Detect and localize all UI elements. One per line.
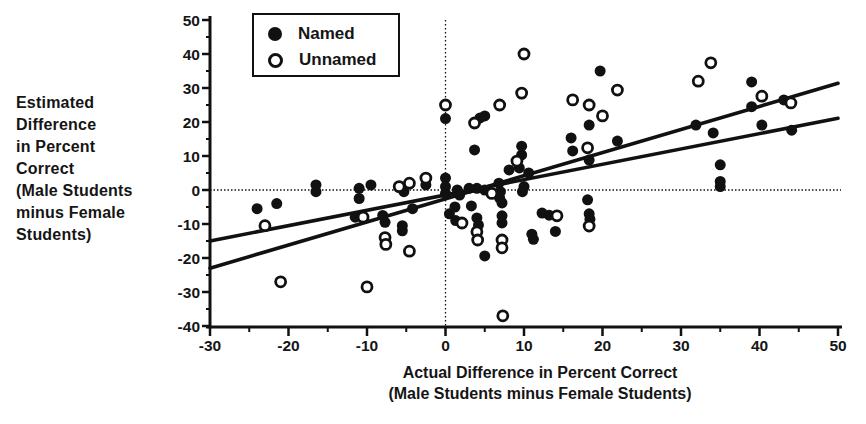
- data-point-named: [479, 110, 490, 121]
- data-point-named: [310, 186, 321, 197]
- x-tick-label: 40: [751, 337, 768, 354]
- data-point-unnamed: [568, 95, 578, 105]
- data-point-named: [271, 198, 282, 209]
- data-point-named: [440, 113, 451, 124]
- data-point-unnamed: [260, 221, 270, 231]
- data-point-unnamed: [583, 143, 593, 153]
- y-axis-label-line: Correct: [16, 158, 133, 180]
- data-point-named: [365, 179, 376, 190]
- data-point-named: [479, 250, 490, 261]
- data-point-unnamed: [421, 173, 431, 183]
- x-tick-label: 30: [672, 337, 689, 354]
- x-tick-label: -10: [356, 337, 378, 354]
- data-point-named: [497, 197, 508, 208]
- data-point-unnamed: [495, 100, 505, 110]
- x-axis-label: Actual Difference in Percent Correct (Ma…: [295, 362, 785, 404]
- data-point-unnamed: [552, 211, 562, 221]
- y-tick-label: 50: [183, 12, 200, 29]
- data-point-named: [612, 136, 623, 147]
- y-axis-label-line: Difference: [16, 114, 133, 136]
- x-axis-label-line: Actual Difference in Percent Correct: [295, 362, 785, 383]
- data-point-unnamed: [276, 277, 286, 287]
- data-point-named: [567, 145, 578, 156]
- data-point-unnamed: [757, 91, 767, 101]
- data-point-unnamed: [584, 100, 594, 110]
- x-tick-label: -20: [277, 337, 299, 354]
- y-tick-label: -40: [178, 318, 200, 335]
- data-point-named: [584, 120, 595, 131]
- data-point-named: [746, 101, 757, 112]
- data-point-named: [582, 194, 593, 205]
- data-point-unnamed: [512, 156, 522, 166]
- data-point-unnamed: [706, 58, 716, 68]
- data-point-named: [746, 76, 757, 87]
- y-tick-label: -30: [178, 284, 200, 301]
- data-point-unnamed: [358, 212, 368, 222]
- shallower-fit-line: [210, 118, 838, 241]
- y-axis-label: Estimated Difference in Percent Correct …: [16, 92, 133, 246]
- legend-item-named: Named: [268, 21, 398, 47]
- y-tick-label: 30: [183, 80, 200, 97]
- data-point-named: [566, 132, 577, 143]
- data-point-named: [354, 193, 365, 204]
- data-point-named: [550, 226, 561, 237]
- y-tick-label: 0: [191, 182, 200, 199]
- data-point-unnamed: [362, 282, 372, 292]
- data-point-named: [466, 200, 477, 211]
- data-point-unnamed: [441, 100, 451, 110]
- data-point-unnamed: [381, 239, 391, 249]
- data-point-unnamed: [394, 182, 404, 192]
- x-axis-label-line: (Male Students minus Female Students): [295, 383, 785, 404]
- y-tick-label: -20: [178, 250, 200, 267]
- data-point-named: [523, 168, 534, 179]
- data-point-unnamed: [473, 235, 483, 245]
- data-point-named: [708, 127, 719, 138]
- data-point-named: [786, 125, 797, 136]
- data-point-named: [407, 203, 418, 214]
- data-point-named: [519, 181, 530, 192]
- open-circle-icon: [268, 53, 283, 68]
- y-axis-label-line: Students): [16, 224, 133, 246]
- data-point-named: [715, 181, 726, 192]
- data-point-named: [497, 217, 508, 228]
- y-axis-label-line: (Male Students: [16, 180, 133, 202]
- data-point-unnamed: [470, 118, 480, 128]
- data-point-named: [715, 159, 726, 170]
- data-point-named: [690, 120, 701, 131]
- data-point-unnamed: [487, 188, 497, 198]
- data-point-named: [528, 234, 539, 245]
- data-point-unnamed: [612, 85, 622, 95]
- data-point-unnamed: [404, 178, 414, 188]
- x-tick-label: 20: [594, 337, 611, 354]
- y-axis-label-line: Estimated: [16, 92, 133, 114]
- y-tick-label: -10: [178, 216, 200, 233]
- data-point-unnamed: [584, 221, 594, 231]
- data-point-unnamed: [517, 88, 527, 98]
- data-point-unnamed: [693, 76, 703, 86]
- data-point-named: [380, 217, 391, 228]
- legend-label-named: Named: [298, 24, 355, 44]
- y-axis-label-line: minus Female: [16, 202, 133, 224]
- data-point-named: [449, 202, 460, 213]
- y-tick-label: 20: [183, 114, 200, 131]
- data-point-unnamed: [404, 246, 414, 256]
- x-tick-label: 50: [829, 337, 846, 354]
- scatter-figure: -30-20-1001020304050-40-30-20-1001020304…: [0, 0, 866, 424]
- data-point-named: [252, 203, 263, 214]
- data-point-unnamed: [497, 243, 507, 253]
- data-point-unnamed: [498, 311, 508, 321]
- data-point-unnamed: [519, 49, 529, 59]
- y-tick-label: 40: [183, 46, 200, 63]
- y-axis-label-line: in Percent: [16, 136, 133, 158]
- legend-label-unnamed: Unnamed: [299, 50, 376, 70]
- data-point-named: [354, 183, 365, 194]
- filled-circle-icon: [268, 27, 282, 41]
- data-point-named: [595, 66, 606, 77]
- data-point-unnamed: [598, 111, 608, 121]
- data-point-named: [440, 188, 451, 199]
- legend-item-unnamed: Unnamed: [268, 47, 398, 73]
- y-tick-label: 10: [183, 148, 200, 165]
- data-point-unnamed: [786, 98, 796, 108]
- data-point-named: [584, 155, 595, 166]
- data-point-unnamed: [457, 218, 467, 228]
